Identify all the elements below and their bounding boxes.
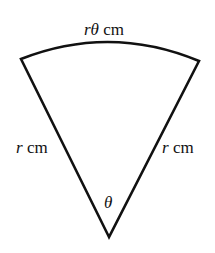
sector-diagram: rθ cm r cm r cm θ: [0, 0, 215, 253]
left-radius-label: r cm: [16, 138, 48, 157]
right-radius-label: r cm: [162, 138, 194, 157]
angle-label: θ: [104, 193, 112, 212]
arc-length-label: rθ cm: [84, 20, 124, 39]
